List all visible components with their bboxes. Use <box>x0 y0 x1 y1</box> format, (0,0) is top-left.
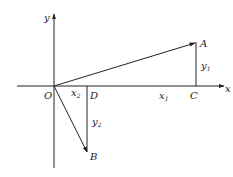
point-c-label: C <box>190 90 198 101</box>
point-d-label: D <box>89 90 98 101</box>
label-y1: y1 <box>200 60 210 72</box>
y-axis-label: y <box>43 12 50 23</box>
point-a-label: A <box>199 38 207 49</box>
vector-diagram: y x O A B C D x1 y1 x2 y2 <box>0 0 233 177</box>
label-y2: y2 <box>91 116 102 128</box>
x-axis-label: x <box>225 83 231 94</box>
point-b-label: B <box>89 151 97 162</box>
vector-oa <box>54 43 195 86</box>
label-x2: x2 <box>71 87 81 99</box>
label-x1: x1 <box>159 90 168 102</box>
origin-label: O <box>44 90 52 101</box>
